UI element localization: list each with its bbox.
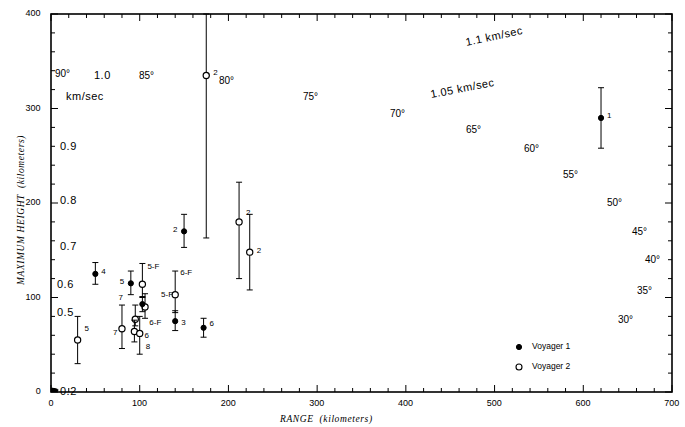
data-point-1-0 bbox=[598, 88, 604, 148]
angle-label: 40° bbox=[645, 254, 660, 265]
data-point-3-16 bbox=[172, 311, 178, 331]
figure-root: 01002003004005006007000100200300400RANGE… bbox=[0, 0, 685, 427]
legend-marker-open-circle bbox=[516, 364, 522, 370]
legend-marker-filled-circle bbox=[516, 344, 521, 349]
velocity-label: 0.8 bbox=[60, 194, 77, 206]
y-tick-label: 400 bbox=[25, 8, 40, 18]
data-point-4-5 bbox=[92, 263, 98, 285]
data-point-label: 8 bbox=[146, 342, 150, 351]
data-point-2-2 bbox=[181, 214, 187, 247]
y-axis-title-unit: (kilometers) bbox=[16, 135, 26, 188]
x-tick-label: 100 bbox=[132, 398, 147, 408]
angle-label: 90° bbox=[55, 68, 70, 79]
x-axis-title: RANGE (kilometers) bbox=[280, 414, 373, 424]
x-tick-label: 300 bbox=[309, 398, 324, 408]
y-axis-title: MAXIMUM HEIGHT (kilometers) bbox=[16, 135, 26, 285]
data-point-label: 6-F bbox=[180, 268, 192, 277]
data-point-2-1 bbox=[203, 14, 209, 238]
angle-label: 60° bbox=[524, 143, 539, 154]
data-point-label: 5 bbox=[85, 324, 89, 333]
data-point-label: 4 bbox=[101, 267, 105, 276]
data-point-2-4 bbox=[247, 214, 253, 290]
data-point-label: 3 bbox=[181, 318, 185, 327]
data-point-6-14 bbox=[131, 320, 137, 342]
data-point-label: 7 bbox=[113, 328, 117, 337]
data-point-label: 2 bbox=[173, 225, 177, 234]
data-point-label: 7 bbox=[118, 293, 122, 302]
angle-label: 50° bbox=[607, 197, 622, 208]
y-tick-label: 100 bbox=[25, 292, 40, 302]
angle-label: 65° bbox=[466, 124, 481, 135]
velocity-label: 0.7 bbox=[60, 240, 77, 252]
angle-label: 75° bbox=[303, 91, 318, 102]
angle-label: 30° bbox=[618, 314, 633, 325]
velocity-label: 1.0 bbox=[94, 69, 111, 81]
x-tick-label: 700 bbox=[664, 398, 679, 408]
y-axis-title-main: MAXIMUM HEIGHT bbox=[16, 194, 26, 285]
angle-label: 85° bbox=[139, 70, 154, 81]
x-tick-label: 500 bbox=[487, 398, 502, 408]
x-tick-label: 600 bbox=[575, 398, 590, 408]
data-point-label: 5-F bbox=[147, 262, 159, 271]
data-point-label: 2 bbox=[213, 68, 217, 77]
data-point-label: 6 bbox=[144, 331, 148, 340]
velocity-label: 0.6 bbox=[57, 278, 74, 290]
y-tick-label: 200 bbox=[25, 197, 40, 207]
angle-label: 80° bbox=[219, 75, 234, 86]
data-point-label: 5 bbox=[120, 277, 124, 286]
angle-label: 55° bbox=[563, 169, 578, 180]
data-point-label: 6 bbox=[210, 319, 214, 328]
x-tick-label: 200 bbox=[221, 398, 236, 408]
data-point-5f-8 bbox=[139, 263, 145, 297]
x-tick-label: 400 bbox=[398, 398, 413, 408]
legend-label-2: Voyager 2 bbox=[532, 361, 570, 371]
data-point-7-13 bbox=[119, 305, 125, 348]
data-point-5-7 bbox=[128, 271, 134, 295]
data-point-label: 1 bbox=[607, 111, 611, 120]
data-point-label: 2 bbox=[246, 208, 250, 217]
data-point-label: 2 bbox=[257, 246, 261, 255]
y-tick-label: 0 bbox=[36, 386, 41, 396]
data-points bbox=[75, 14, 605, 364]
velocity-label: 0.5 bbox=[57, 306, 74, 318]
data-point-6-17 bbox=[201, 318, 207, 337]
velocity-label: km/sec bbox=[66, 90, 104, 102]
x-tick-label: 0 bbox=[48, 398, 53, 408]
x-axis-title-unit: (kilometers) bbox=[320, 414, 373, 424]
x-axis-title-main: RANGE bbox=[280, 414, 314, 424]
data-point-5-6 bbox=[75, 316, 81, 363]
angle-label: 45° bbox=[632, 226, 647, 237]
plume-trajectory-chart bbox=[0, 0, 685, 427]
velocity-label: 0.2 bbox=[60, 385, 77, 397]
data-point-6f-11 bbox=[132, 305, 138, 326]
velocity-label: 0.9 bbox=[60, 140, 77, 152]
legend-label-1: Voyager 1 bbox=[532, 341, 570, 351]
angle-label: 35° bbox=[637, 285, 652, 296]
data-point-label: 6-F bbox=[149, 318, 161, 327]
data-point-label: 5-F bbox=[161, 290, 173, 299]
angle-label: 70° bbox=[390, 108, 405, 119]
y-tick-label: 300 bbox=[25, 103, 40, 113]
data-point-2-3 bbox=[236, 182, 242, 278]
